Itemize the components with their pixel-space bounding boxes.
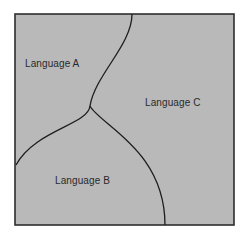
language-regions-diagram <box>0 0 245 237</box>
map-panel <box>15 14 234 225</box>
region-label-language-a: Language A <box>25 58 79 69</box>
region-label-language-c: Language C <box>145 97 201 108</box>
region-label-language-b: Language B <box>55 175 110 186</box>
